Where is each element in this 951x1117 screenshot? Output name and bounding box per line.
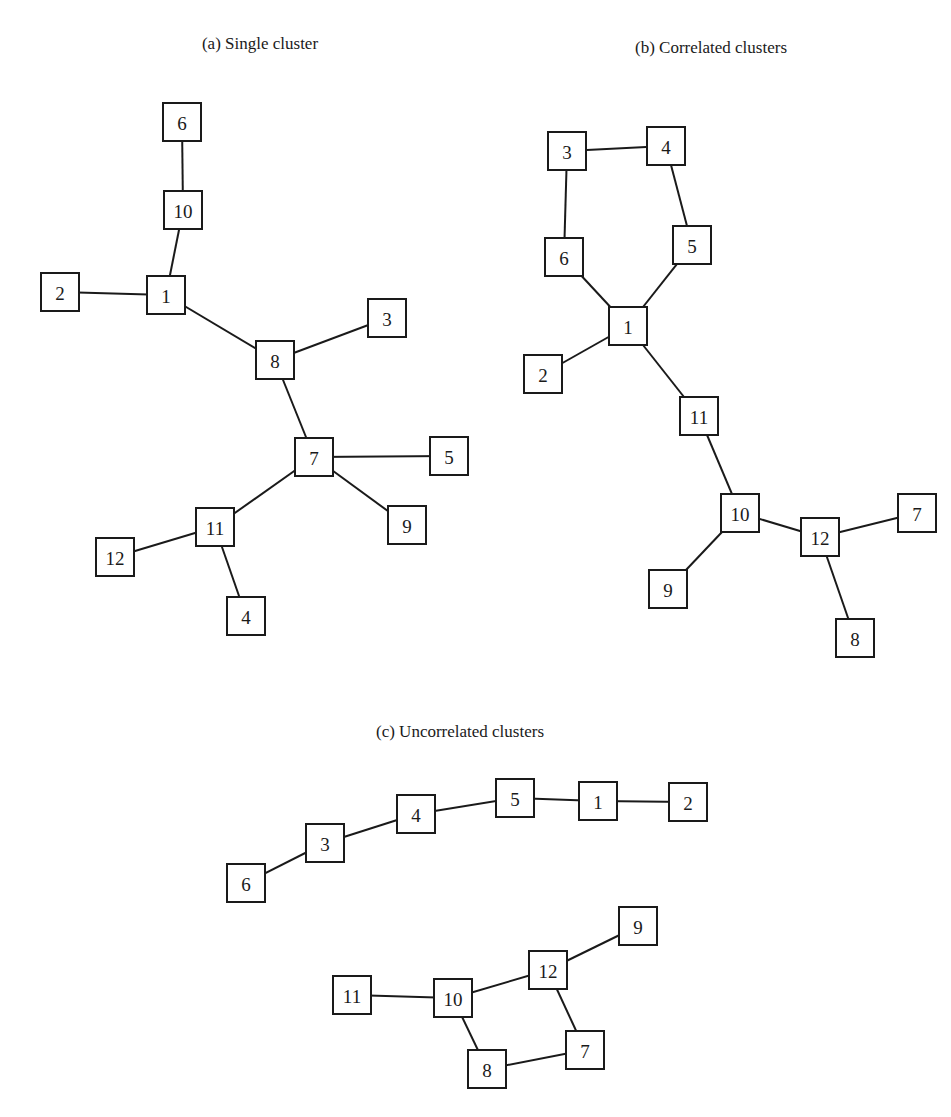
node-9: 9: [649, 570, 687, 608]
node-label: 5: [687, 236, 697, 257]
node-label: 7: [309, 448, 319, 469]
node-8: 8: [836, 619, 874, 657]
node-7: 7: [566, 1031, 604, 1069]
node-label: 7: [912, 504, 922, 525]
node-6: 6: [163, 103, 201, 141]
node-label: 1: [161, 286, 171, 307]
node-1: 1: [147, 276, 185, 314]
node-5: 5: [673, 226, 711, 264]
node-3: 3: [306, 824, 344, 862]
cluster-graphs-diagram: 610213875911124 346512111012798 51243691…: [0, 0, 951, 1117]
node-1: 1: [609, 307, 647, 345]
node-label: 12: [539, 961, 558, 982]
node-1: 1: [579, 782, 617, 820]
edge-7-5: [314, 456, 449, 457]
node-11: 11: [196, 508, 234, 546]
node-label: 6: [559, 248, 569, 269]
node-label: 3: [382, 309, 392, 330]
node-label: 8: [270, 351, 280, 372]
node-5: 5: [496, 779, 534, 817]
node-label: 9: [402, 516, 412, 537]
node-label: 2: [683, 793, 693, 814]
node-4: 4: [397, 795, 435, 833]
node-label: 2: [55, 283, 65, 304]
node-label: 10: [731, 504, 750, 525]
node-2: 2: [669, 783, 707, 821]
node-8: 8: [256, 341, 294, 379]
panel-a-single-cluster: 610213875911124: [41, 103, 468, 635]
node-4: 4: [647, 127, 685, 165]
node-7: 7: [898, 494, 936, 532]
node-label: 11: [690, 407, 708, 428]
node-label: 9: [633, 917, 643, 938]
node-3: 3: [368, 299, 406, 337]
panel-b-correlated-clusters: 346512111012798: [524, 127, 936, 657]
edges: [543, 146, 917, 638]
node-label: 2: [538, 365, 548, 386]
node-9: 9: [388, 506, 426, 544]
node-12: 12: [96, 538, 134, 576]
node-label: 3: [320, 834, 330, 855]
node-2: 2: [41, 273, 79, 311]
node-label: 4: [241, 607, 251, 628]
node-label: 1: [623, 317, 633, 338]
node-label: 12: [106, 548, 125, 569]
node-6: 6: [227, 864, 265, 902]
node-10: 10: [434, 979, 472, 1017]
node-11: 11: [333, 976, 371, 1014]
node-9: 9: [619, 907, 657, 945]
node-5: 5: [430, 437, 468, 475]
node-label: 3: [562, 142, 572, 163]
node-label: 4: [661, 137, 671, 158]
node-12: 12: [801, 518, 839, 556]
node-10: 10: [721, 494, 759, 532]
node-6: 6: [545, 238, 583, 276]
node-label: 5: [510, 789, 520, 810]
node-3: 3: [548, 132, 586, 170]
node-8: 8: [468, 1050, 506, 1088]
node-label: 5: [444, 447, 454, 468]
node-label: 4: [411, 805, 421, 826]
node-11: 11: [680, 397, 718, 435]
node-4: 4: [227, 597, 265, 635]
node-label: 11: [343, 986, 361, 1007]
node-label: 6: [177, 113, 187, 134]
node-label: 10: [444, 989, 463, 1010]
node-12: 12: [529, 951, 567, 989]
node-label: 1: [593, 792, 603, 813]
node-label: 7: [580, 1041, 590, 1062]
node-label: 9: [663, 580, 673, 601]
node-10: 10: [164, 191, 202, 229]
node-label: 11: [206, 518, 224, 539]
panel-c-uncorrelated-clusters: 512436912111078: [227, 779, 707, 1088]
node-2: 2: [524, 355, 562, 393]
node-label: 8: [482, 1060, 492, 1081]
node-label: 8: [850, 629, 860, 650]
node-label: 12: [811, 528, 830, 549]
node-7: 7: [295, 438, 333, 476]
node-label: 10: [174, 201, 193, 222]
node-label: 6: [241, 874, 251, 895]
